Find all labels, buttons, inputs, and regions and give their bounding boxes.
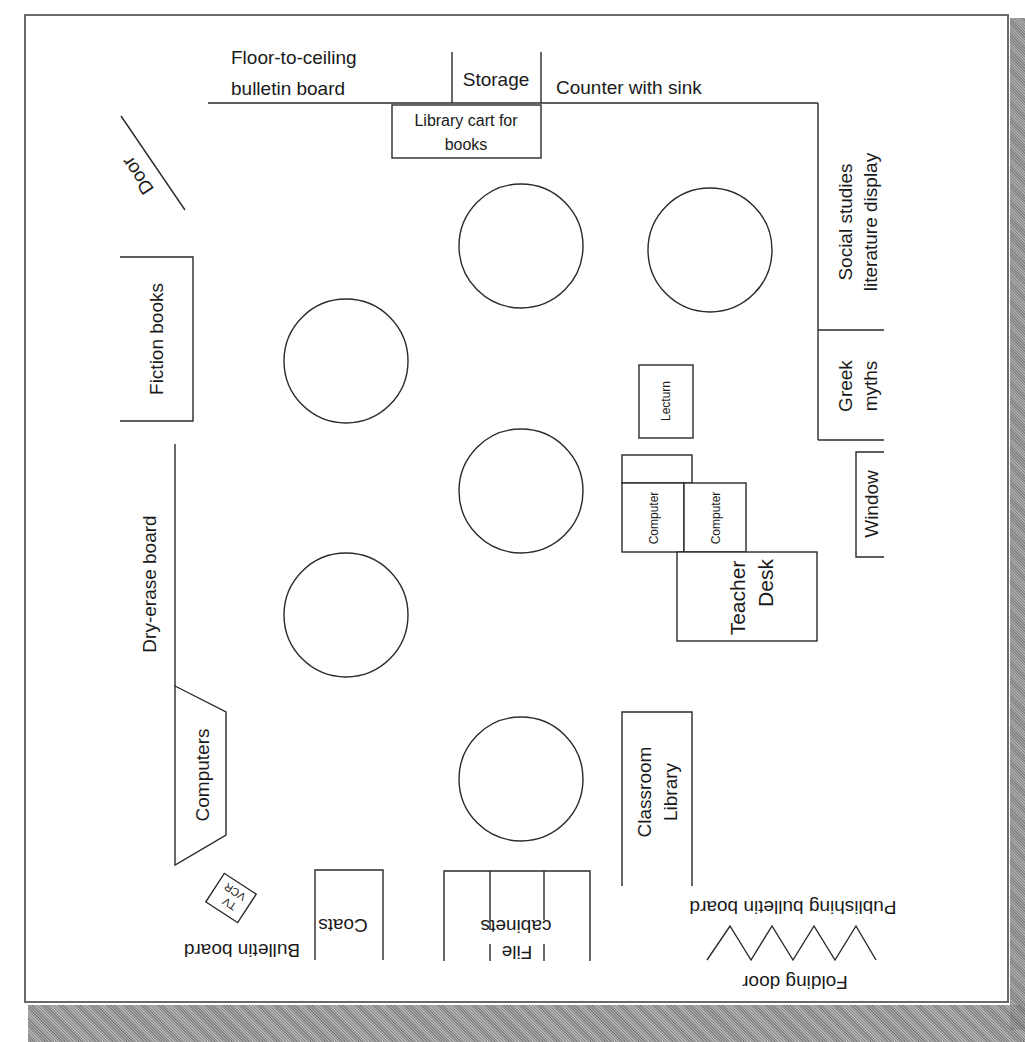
window-label: Window (861, 470, 882, 538)
greek-myths-label-1: Greek (835, 360, 856, 412)
lecturn-label: Lecturn (659, 381, 673, 421)
top-wall (208, 103, 884, 440)
classroom-library-label-2: Library (660, 762, 681, 821)
door: Door (117, 116, 185, 210)
file-cabinets-label-2: cabinets (481, 916, 552, 937)
folding-door: Folding door (707, 926, 876, 993)
door-label: Door (117, 152, 158, 198)
teacher-desk: Teacher Desk (677, 552, 817, 641)
coats-label: Coats (318, 915, 368, 936)
dry-erase-board: Dry-erase board (139, 444, 175, 686)
student-table (459, 717, 583, 841)
classroom-library: Classroom Library (622, 712, 692, 886)
fiction-books: Fiction books (120, 257, 193, 421)
computers-label: Computers (192, 729, 213, 822)
window: Window (856, 452, 884, 557)
greek-myths-label-2: myths (860, 361, 881, 412)
library-cart: Library cart for books (392, 105, 541, 158)
student-table (284, 553, 408, 677)
file-cabinets: cabinets File (444, 871, 590, 963)
file-cabinets-label-1: File (502, 942, 533, 963)
student-table (459, 184, 583, 308)
lecturn: Lecturn (639, 365, 693, 438)
student-table (648, 188, 772, 312)
publishing-board-label: Publishing bulletin board (689, 897, 896, 918)
library-cart-label-1: Library cart for (414, 112, 518, 129)
teacher-desk-label-2: Desk (754, 559, 777, 607)
teacher-desk-label-1: Teacher (726, 561, 749, 636)
computer-a-label: Computer (647, 492, 661, 545)
printer-box (622, 455, 692, 483)
folding-door-label: Folding door (742, 972, 848, 993)
classroom-library-label-1: Classroom (634, 747, 655, 838)
computer-b-label: Computer (709, 492, 723, 545)
counter-label: Counter with sink (556, 77, 702, 98)
bulletin-top-label-1: Floor-to-ceiling (231, 47, 357, 68)
library-cart-label-2: books (445, 136, 488, 153)
teacher-computers: Computer Computer (622, 455, 746, 552)
computers-station: Computers (175, 686, 226, 865)
floor-plan-diagram: Floor-to-ceiling bulletin board Storage … (0, 0, 1025, 1042)
storage-label: Storage (463, 69, 530, 90)
floor-plan-page: Floor-to-ceiling bulletin board Storage … (0, 0, 1025, 1042)
tv-vcr: TV VCR (206, 873, 256, 922)
coats: Coats (315, 870, 383, 960)
social-studies-label-1: Social studies (835, 163, 856, 280)
social-studies-label-2: literature display (860, 152, 881, 291)
storage: Storage (452, 52, 541, 103)
bulletin-bottom-label: Bulletin board (184, 940, 300, 961)
fiction-books-label: Fiction books (146, 283, 167, 395)
dry-erase-board-label: Dry-erase board (139, 515, 160, 652)
student-table (284, 299, 408, 423)
folding-door-zigzag (707, 926, 876, 960)
student-table (459, 429, 583, 553)
bulletin-top-label-2: bulletin board (231, 78, 345, 99)
